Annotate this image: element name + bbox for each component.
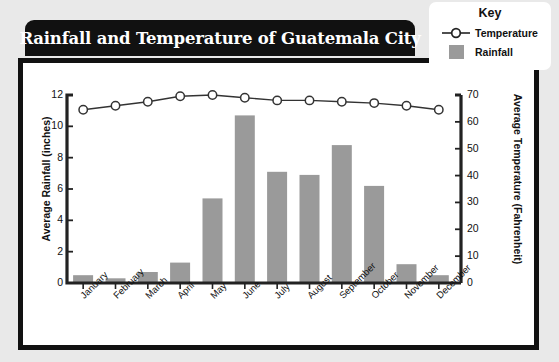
chart-title-banner: Rainfall and Temperature of Guatemala Ci… (25, 20, 415, 56)
y-tick-label-left: 6 (41, 182, 63, 194)
axis-left-spine (67, 95, 461, 283)
y-tick-label-left: 2 (41, 245, 63, 257)
temperature-point-july (273, 96, 281, 104)
temperature-point-september (338, 98, 346, 106)
y-tick-label-left: 0 (41, 276, 63, 288)
y-tick-label-right: 20 (467, 222, 489, 234)
y-tick-label-right: 50 (467, 142, 489, 154)
bar-june (235, 115, 255, 283)
temperature-point-march (144, 98, 152, 106)
y-tick-label-left: 8 (41, 151, 63, 163)
legend-label-temperature: Temperature (475, 27, 538, 39)
temperature-point-november (402, 102, 410, 110)
temperature-point-may (208, 91, 216, 99)
legend-key-box: Key Temperature Rainfall (429, 2, 551, 70)
legend-heading: Key (429, 6, 551, 20)
y-tick-label-right: 60 (467, 115, 489, 127)
legend-item-rainfall: Rainfall (429, 42, 551, 61)
temperature-point-february (111, 102, 119, 110)
y-tick-label-right: 70 (467, 88, 489, 100)
temperature-point-january (79, 106, 87, 114)
y-tick-label-right: 10 (467, 249, 489, 261)
bar-may (203, 198, 223, 283)
chart-panel: Average Rainfall (inches) Average Temper… (18, 58, 539, 350)
temperature-point-october (370, 99, 378, 107)
temperature-point-august (305, 96, 313, 104)
bar-july (267, 172, 287, 283)
temperature-point-june (241, 94, 249, 102)
legend-label-rainfall: Rainfall (475, 46, 513, 58)
y-tick-label-left: 12 (41, 88, 63, 100)
chart-svg (23, 63, 534, 345)
temperature-line (83, 95, 439, 110)
plot-area: Average Rainfall (inches) Average Temper… (23, 63, 534, 345)
legend-item-temperature: Temperature (429, 23, 551, 42)
axis-right-spine (455, 95, 461, 283)
bar-august (300, 175, 320, 283)
bar-september (332, 145, 352, 283)
y-tick-label-right: 30 (467, 195, 489, 207)
y-tick-label-right: 40 (467, 169, 489, 181)
y-tick-label-right: 0 (467, 276, 489, 288)
y-tick-label-left: 10 (41, 119, 63, 131)
line-circle-marker-icon (441, 26, 471, 40)
temperature-point-april (176, 92, 184, 100)
square-swatch-icon (441, 45, 471, 59)
page-title: Rainfall and Temperature of Guatemala Ci… (19, 29, 420, 48)
temperature-point-december (435, 106, 443, 114)
y-tick-label-left: 4 (41, 213, 63, 225)
